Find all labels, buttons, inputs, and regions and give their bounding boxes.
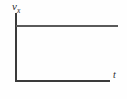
y-axis-label-subscript: x xyxy=(17,6,20,15)
y-axis xyxy=(15,13,17,81)
x-axis xyxy=(15,80,110,82)
y-axis-label: vx xyxy=(12,1,20,15)
velocity-time-figure: vx t xyxy=(0,0,127,99)
x-axis-label: t xyxy=(113,70,116,80)
constant-velocity-line xyxy=(16,25,118,27)
